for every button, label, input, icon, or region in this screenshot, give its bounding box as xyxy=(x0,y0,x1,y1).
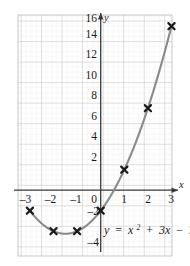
coordinate-graph: x y 16 14 12 10 8 6 4 2 –2 –4 –3 –2 –1 0… xyxy=(0,0,190,266)
equation-minus: − xyxy=(176,223,183,237)
y-tick-label: 8 xyxy=(91,89,97,101)
x-tick-label: 1 xyxy=(121,193,127,205)
y-tick-label: –4 xyxy=(87,236,100,248)
y-tick-label: 16 xyxy=(86,12,98,24)
y-tick-label: 2 xyxy=(91,151,97,163)
equation-var: x xyxy=(127,223,134,237)
y-tick-label: 10 xyxy=(86,69,98,81)
equation-plus: + xyxy=(146,223,153,237)
x-axis-label: x xyxy=(178,179,184,190)
x-tick-label: 3 xyxy=(168,193,174,205)
equation-term2: 3x xyxy=(158,223,171,237)
y-axis-label: y xyxy=(103,12,109,23)
x-tick-label: 2 xyxy=(145,193,151,205)
equation-exponent: 2 xyxy=(136,223,140,232)
x-tick-label: 0 xyxy=(91,193,97,205)
y-tick-label: 4 xyxy=(91,130,97,142)
equation-constant: 2 xyxy=(189,223,190,237)
equation-lhs: y xyxy=(103,223,110,237)
equation-equals: = xyxy=(115,223,122,237)
x-tick-label: –2 xyxy=(44,193,57,205)
y-tick-label: 14 xyxy=(86,28,98,40)
x-tick-label: –1 xyxy=(69,193,82,205)
graph-figure: x y 16 14 12 10 8 6 4 2 –2 –4 –3 –2 –1 0… xyxy=(0,0,190,266)
y-tick-label: 6 xyxy=(91,110,97,122)
x-tick-label: –3 xyxy=(19,193,32,205)
y-tick-label: 12 xyxy=(86,48,98,60)
